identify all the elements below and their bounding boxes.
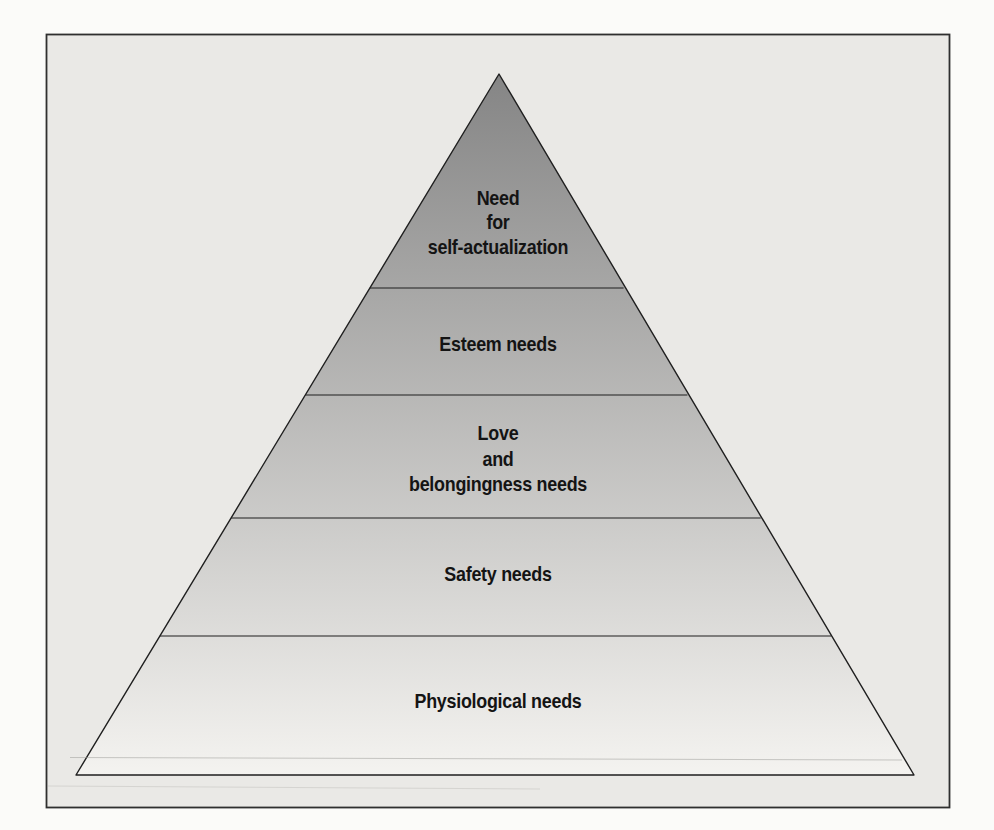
level-esteem: Esteem needs xyxy=(439,333,556,355)
level-safety: Safety needs xyxy=(444,563,551,585)
level-label-esteem: Esteem needs xyxy=(439,333,556,355)
level-label-love-line-2: and xyxy=(482,448,513,470)
level-label-self-actualization-line-1: Need xyxy=(477,187,520,209)
level-label-self-actualization-line-2: for xyxy=(486,211,509,233)
level-label-physiological: Physiological needs xyxy=(414,690,581,712)
level-physiological: Physiological needs xyxy=(414,690,581,712)
level-label-self-actualization-line-3: self-actualization xyxy=(428,236,568,258)
level-label-love-line-3: belongingness needs xyxy=(409,473,587,495)
maslow-pyramid-figure: Need for self-actualization Esteem needs… xyxy=(0,0,994,830)
scanned-book-page: Need for self-actualization Esteem needs… xyxy=(0,0,994,830)
level-label-love-line-1: Love xyxy=(478,422,519,444)
level-label-safety: Safety needs xyxy=(444,563,551,585)
